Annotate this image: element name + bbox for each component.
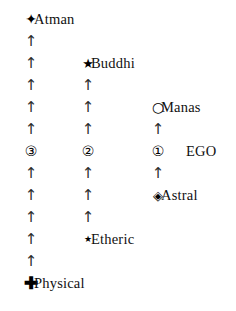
node-label-physical: Physical bbox=[34, 272, 85, 294]
up-arrow-icon: ↑ bbox=[77, 184, 99, 206]
up-arrow-icon: ↑ bbox=[77, 74, 99, 96]
up-arrow-icon: ↑ bbox=[77, 96, 99, 118]
up-arrow-icon: ↑ bbox=[77, 162, 99, 184]
arrow-glyph: ↑ bbox=[25, 166, 38, 181]
up-arrow-icon: ↑ bbox=[77, 206, 99, 228]
arrow-glyph: ↑ bbox=[25, 232, 38, 247]
up-arrow-icon: ↑ bbox=[20, 30, 42, 52]
arrow-glyph: ↑ bbox=[82, 78, 95, 93]
node-label-manas: Manas bbox=[161, 96, 201, 118]
arrow-glyph: ↑ bbox=[82, 166, 95, 181]
node-label-astral: Astral bbox=[161, 184, 198, 206]
arrow-glyph: ↑ bbox=[152, 166, 165, 181]
node-label-buddhi: Buddhi bbox=[91, 52, 135, 74]
node-ego-2: ② bbox=[77, 140, 99, 162]
circled-one-icon: ① bbox=[152, 144, 165, 158]
arrow-glyph: ↑ bbox=[25, 34, 38, 49]
up-arrow-icon: ↑ bbox=[20, 74, 42, 96]
constitution-ladder-diagram: ↑↑↑↑↑↑↑↑↑↑↑↑↑↑↑↑↑↑✦Atman★Buddhi○Manas③②①… bbox=[0, 0, 236, 311]
arrow-glyph: ↑ bbox=[82, 188, 95, 203]
arrow-glyph: ↑ bbox=[25, 254, 38, 269]
node-label-etheric: Etheric bbox=[91, 228, 134, 250]
arrow-glyph: ↑ bbox=[25, 56, 38, 71]
up-arrow-icon: ↑ bbox=[20, 184, 42, 206]
arrow-glyph: ↑ bbox=[25, 210, 38, 225]
circled-two-icon: ② bbox=[82, 144, 95, 158]
up-arrow-icon: ↑ bbox=[20, 96, 42, 118]
node-ego-1: ① bbox=[147, 140, 169, 162]
up-arrow-icon: ↑ bbox=[77, 118, 99, 140]
arrow-glyph: ↑ bbox=[25, 122, 38, 137]
arrow-glyph: ↑ bbox=[25, 100, 38, 115]
arrow-glyph: ↑ bbox=[25, 78, 38, 93]
up-arrow-icon: ↑ bbox=[20, 118, 42, 140]
circled-three-icon: ③ bbox=[25, 144, 38, 158]
up-arrow-icon: ↑ bbox=[20, 206, 42, 228]
node-label-ego-1: EGO bbox=[186, 140, 216, 162]
up-arrow-icon: ↑ bbox=[20, 52, 42, 74]
arrow-glyph: ↑ bbox=[82, 122, 95, 137]
up-arrow-icon: ↑ bbox=[20, 250, 42, 272]
arrow-glyph: ↑ bbox=[82, 210, 95, 225]
arrow-glyph: ↑ bbox=[25, 188, 38, 203]
up-arrow-icon: ↑ bbox=[147, 118, 169, 140]
arrow-glyph: ↑ bbox=[82, 100, 95, 115]
node-label-atman: Atman bbox=[34, 8, 74, 30]
up-arrow-icon: ↑ bbox=[147, 162, 169, 184]
up-arrow-icon: ↑ bbox=[20, 228, 42, 250]
arrow-glyph: ↑ bbox=[152, 122, 165, 137]
up-arrow-icon: ↑ bbox=[20, 162, 42, 184]
node-ego-3: ③ bbox=[20, 140, 42, 162]
